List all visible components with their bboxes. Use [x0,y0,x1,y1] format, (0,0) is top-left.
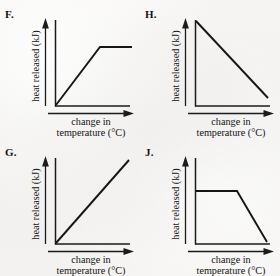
graph-f: heat released (kJ) change in temperature… [0,0,140,138]
data-curve-g [56,160,129,243]
y-label-arrow-head-h [182,18,189,29]
x-label-arrow-head-j [264,248,275,255]
y-axis-label-j: heat released (kJ) [170,168,182,239]
graph-j: heat released (kJ) change in temperature… [140,138,280,276]
y-axis-label-g: heat released (kJ) [30,168,42,239]
y-axis-label-f: heat released (kJ) [30,30,42,101]
answer-choice-panel-h[interactable]: H. heat released (kJ) change in temperat… [140,0,280,138]
y-label-arrow-head-f [42,18,49,29]
x-axis-label-line1-f: change in [71,116,110,127]
multiple-choice-graph-figure: F. heat released (kJ) change in temperat… [0,0,280,276]
answer-choice-panel-j[interactable]: J. heat released (kJ) change in temperat… [140,138,280,276]
data-curve-j [196,191,267,242]
y-label-arrow-head-j [182,156,189,167]
data-curve-f [56,47,132,105]
x-axis-label-line2-f: temperature (°C) [57,127,126,139]
x-axis-label-line2-j: temperature (°C) [197,265,266,276]
graph-h: heat released (kJ) change in temperature… [140,0,280,138]
graph-g: heat released (kJ) change in temperature… [0,138,140,276]
answer-choice-panel-f[interactable]: F. heat released (kJ) change in temperat… [0,0,140,138]
y-axis-label-h: heat released (kJ) [170,30,182,101]
x-axis-label-line1-g: change in [71,254,110,265]
x-label-arrow-head-g [124,248,135,255]
x-axis-label-line1-h: change in [211,116,250,127]
x-label-arrow-head-h [264,110,275,117]
x-axis-label-line1-j: change in [211,254,250,265]
x-axis-label-line2-h: temperature (°C) [197,127,266,139]
x-label-arrow-head-f [124,110,135,117]
answer-choice-panel-g[interactable]: G. heat released (kJ) change in temperat… [0,138,140,276]
data-curve-h [196,21,268,98]
y-label-arrow-head-g [42,156,49,167]
x-axis-label-line2-g: temperature (°C) [57,265,126,276]
